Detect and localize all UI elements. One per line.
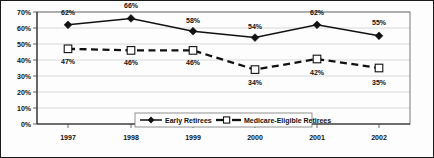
data-label: 58% xyxy=(186,17,201,24)
data-labels-medicare-eligible-retirees: 47% 46% 46% 34% 42% 35% xyxy=(61,58,387,86)
data-label: 62% xyxy=(310,9,325,16)
legend-label-early-retirees: Early Retirees xyxy=(165,117,212,125)
x-tick-label: 2001 xyxy=(309,134,325,141)
x-tick-label: 1997 xyxy=(60,134,76,141)
y-tick-label: 0% xyxy=(21,121,32,128)
chart-legend: Early Retirees Medicare-Eligible Retiree… xyxy=(135,113,331,127)
legend-label-medicare-eligible-retirees: Medicare-Eligible Retirees xyxy=(244,117,331,125)
data-label: 34% xyxy=(248,79,263,86)
data-label: 62% xyxy=(61,9,76,16)
data-label: 66% xyxy=(124,2,139,9)
y-tickmarks xyxy=(33,12,37,124)
gridlines xyxy=(37,12,410,108)
y-tick-label: 30% xyxy=(17,73,32,80)
y-tick-label: 20% xyxy=(17,89,32,96)
legend-marker-square-icon xyxy=(224,117,230,123)
data-label: 46% xyxy=(186,59,201,66)
x-tick-label: 1998 xyxy=(123,134,139,141)
data-label: 42% xyxy=(310,69,325,76)
data-label: 55% xyxy=(372,19,387,26)
x-tick-label: 1999 xyxy=(185,134,201,141)
x-axis-labels: 1997 1998 1999 2000 2001 2002 xyxy=(60,134,387,141)
x-tick-label: 2002 xyxy=(371,134,387,141)
y-tick-label: 10% xyxy=(17,105,32,112)
series-line-medicare-eligible-retirees xyxy=(68,49,379,70)
y-tick-label: 70% xyxy=(17,9,32,16)
x-tick-label: 2000 xyxy=(247,134,263,141)
y-tick-label: 60% xyxy=(17,25,32,32)
plot-area-frame xyxy=(37,12,410,124)
data-label: 35% xyxy=(372,79,387,86)
data-label: 54% xyxy=(248,23,263,30)
y-tick-label: 50% xyxy=(17,41,32,48)
data-label: 47% xyxy=(61,58,76,65)
y-tick-label: 40% xyxy=(17,57,32,64)
chart-figure: 70% 60% 50% 40% 30% 20% 10% 0% 1997 1998… xyxy=(0,0,434,158)
line-chart: 70% 60% 50% 40% 30% 20% 10% 0% 1997 1998… xyxy=(1,1,434,158)
data-labels-early-retirees: 62% 66% 58% 54% 62% 55% xyxy=(61,2,387,30)
data-label: 46% xyxy=(124,59,139,66)
y-axis-labels: 70% 60% 50% 40% 30% 20% 10% 0% xyxy=(17,9,32,128)
series-markers-medicare-eligible-retirees xyxy=(64,45,383,73)
